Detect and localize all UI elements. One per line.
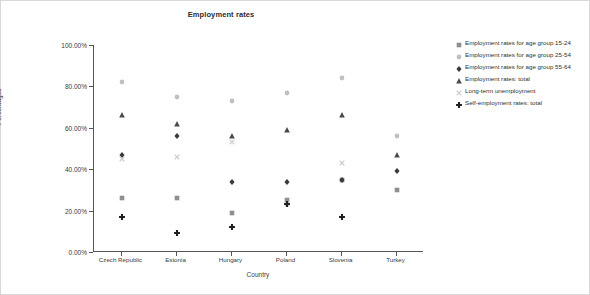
legend-plus-icon xyxy=(453,100,465,109)
data-point xyxy=(118,213,125,220)
data-point xyxy=(118,112,125,119)
data-point xyxy=(283,89,290,96)
x-axis-label: Country xyxy=(93,271,423,278)
chart-legend: Employment rates for age group 15-24Empl… xyxy=(453,39,585,111)
data-point xyxy=(173,230,180,237)
plot-area xyxy=(93,45,423,252)
data-point xyxy=(173,120,180,127)
legend-item-label: Employment rates for age group 25-54 xyxy=(465,51,585,59)
x-axis-tick-label: Hungary xyxy=(219,256,242,263)
legend-item[interactable]: Employment rates for age group 25-54 xyxy=(453,51,585,62)
data-point xyxy=(393,168,400,175)
y-axis-tick-mark xyxy=(89,211,93,212)
legend-item[interactable]: Employment rates for age group 55-64 xyxy=(453,63,585,74)
x-axis-tick-label: Czech Republic xyxy=(99,256,142,263)
data-point xyxy=(228,178,235,185)
data-point xyxy=(338,176,345,183)
y-axis-tick-label: 20.00% xyxy=(65,207,87,214)
legend-circle-icon xyxy=(453,52,465,61)
legend-diamond-icon xyxy=(453,64,465,73)
x-axis-tick-label: Slovenia xyxy=(329,256,353,263)
data-point xyxy=(228,209,235,216)
y-axis-tick-label: 0.00% xyxy=(69,249,87,256)
data-point xyxy=(338,159,345,166)
data-point xyxy=(393,151,400,158)
data-point xyxy=(283,201,290,208)
legend-square-icon xyxy=(453,40,465,49)
legend-item-label: Employment rates: total xyxy=(465,75,585,83)
y-axis-tick-mark xyxy=(89,169,93,170)
legend-triangle-icon xyxy=(453,76,465,85)
data-point xyxy=(283,178,290,185)
data-point xyxy=(173,195,180,202)
data-point xyxy=(173,93,180,100)
data-point xyxy=(338,112,345,119)
data-point xyxy=(173,153,180,160)
data-point xyxy=(228,139,235,146)
legend-item-label: Long-term unemployment xyxy=(465,87,585,95)
y-axis-tick-mark xyxy=(89,128,93,129)
legend-item[interactable]: Employment rates: total xyxy=(453,75,585,86)
y-axis-label: Percentages xyxy=(0,89,2,126)
x-axis-tick-label: Turkey xyxy=(386,256,405,263)
x-axis-tick-label: Poland xyxy=(276,256,295,263)
legend-item-label: Employment rates for age group 55-64 xyxy=(465,63,585,71)
y-axis-tick-label: 100.00% xyxy=(61,42,87,49)
data-point xyxy=(118,195,125,202)
data-point xyxy=(338,75,345,82)
y-axis-tick-label: 80.00% xyxy=(65,83,87,90)
data-point xyxy=(118,79,125,86)
data-point xyxy=(393,133,400,140)
y-axis-tick-mark xyxy=(89,86,93,87)
legend-x-icon xyxy=(453,88,465,97)
data-point xyxy=(338,213,345,220)
data-point xyxy=(283,126,290,133)
legend-item[interactable]: Employment rates for age group 15-24 xyxy=(453,39,585,50)
chart-figure: Employment rates 0.00%20.00%40.00%60.00%… xyxy=(0,0,590,295)
data-point xyxy=(393,186,400,193)
data-point xyxy=(173,133,180,140)
data-point xyxy=(228,224,235,231)
legend-item[interactable]: Long-term unemployment xyxy=(453,87,585,98)
y-axis-tick-label: 40.00% xyxy=(65,166,87,173)
legend-item-label: Self-employment rates: total xyxy=(465,99,585,107)
y-axis-tick-mark xyxy=(89,45,93,46)
y-axis-tick-mark xyxy=(89,252,93,253)
data-point xyxy=(118,155,125,162)
data-point xyxy=(228,97,235,104)
legend-item-label: Employment rates for age group 15-24 xyxy=(465,39,585,47)
x-axis-tick-label: Estonia xyxy=(165,256,186,263)
y-axis-tick-labels: 0.00%20.00%40.00%60.00%80.00%100.00% xyxy=(1,1,87,295)
legend-item[interactable]: Self-employment rates: total xyxy=(453,99,585,110)
y-axis-tick-label: 60.00% xyxy=(65,124,87,131)
